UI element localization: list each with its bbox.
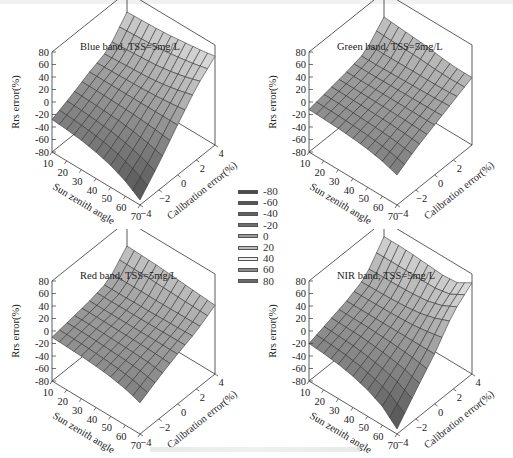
x-tick-label: 50	[101, 422, 112, 433]
x-tick-label: 60	[373, 431, 384, 442]
x-tick-label: 30	[72, 405, 83, 416]
y-tick-label: 4	[218, 148, 224, 159]
z-tick-label: 40	[296, 72, 307, 83]
legend-swatch	[238, 257, 258, 261]
z-tick-label: -60	[292, 134, 306, 145]
legend-swatch	[238, 223, 258, 227]
z-tick-label: 20	[296, 84, 307, 95]
x-tick-label: 10	[43, 387, 54, 398]
z-tick-label: -20	[35, 109, 49, 120]
chart-red-band: 806040200-20-40-60-80Rrs error(%)1020304…	[0, 229, 256, 458]
z-tick-label: -80	[35, 376, 49, 387]
z-tick-label: -80	[292, 376, 306, 387]
x-tick-label: 20	[314, 396, 325, 407]
z-axis-ticks: 806040200-20-40-60-80	[35, 276, 56, 387]
z-axis-label: Rrs error(%)	[267, 304, 279, 358]
legend-swatch	[238, 234, 258, 238]
z-tick-label: 0	[44, 97, 49, 108]
x-tick-label: 60	[373, 202, 384, 213]
x-tick-label: 10	[300, 387, 311, 398]
x-tick-label: 30	[329, 405, 340, 416]
y-tick-label: −4	[140, 208, 152, 219]
x-tick-label: 20	[57, 167, 68, 178]
y-tick-label: 0	[438, 407, 443, 418]
z-tick-label: -60	[292, 363, 306, 374]
z-tick-label: 0	[301, 326, 306, 337]
z-tick-label: -60	[35, 134, 49, 145]
y-tick-label: −2	[159, 193, 170, 204]
surface	[309, 237, 472, 429]
x-tick-label: 30	[72, 176, 83, 187]
x-tick-label: 10	[300, 158, 311, 169]
z-tick-label: 60	[39, 288, 50, 299]
legend-swatch	[238, 212, 258, 216]
x-tick-label: 40	[87, 185, 98, 196]
z-tick-label: 0	[301, 97, 306, 108]
z-tick-label: -40	[292, 122, 306, 133]
x-tick-label: 40	[344, 414, 355, 425]
z-tick-label: 80	[296, 47, 307, 58]
y-tick-label: 4	[218, 377, 224, 388]
z-tick-label: 60	[296, 59, 307, 70]
z-tick-label: 20	[39, 313, 50, 324]
y-tick-label: 4	[475, 377, 481, 388]
x-tick-label: 40	[344, 185, 355, 196]
z-tick-label: 0	[44, 326, 49, 337]
x-tick-label: 20	[57, 396, 68, 407]
z-tick-label: -80	[35, 147, 49, 158]
z-axis-ticks: 806040200-20-40-60-80	[292, 47, 313, 158]
legend-swatch	[238, 190, 258, 194]
z-tick-label: -60	[35, 363, 49, 374]
z-axis-label: Rrs error(%)	[10, 75, 22, 129]
y-tick-label: −4	[397, 208, 409, 219]
y-tick-label: 2	[457, 392, 462, 403]
legend-row: -40	[238, 208, 298, 219]
x-tick-label: 20	[314, 167, 325, 178]
y-tick-label: 0	[438, 178, 443, 189]
z-tick-label: 40	[296, 301, 307, 312]
z-tick-label: -20	[35, 338, 49, 349]
y-tick-label: −2	[159, 422, 170, 433]
z-tick-label: -20	[292, 338, 306, 349]
legend-row: 80	[238, 276, 298, 287]
z-tick-label: 80	[39, 47, 50, 58]
legend-swatch	[238, 279, 258, 283]
z-tick-label: 20	[39, 84, 50, 95]
y-tick-label: 2	[200, 392, 205, 403]
z-tick-label: 20	[296, 313, 307, 324]
y-tick-label: −2	[416, 422, 427, 433]
y-tick-label: 2	[457, 163, 462, 174]
x-tick-label: 60	[116, 202, 127, 213]
x-tick-label: 50	[358, 193, 369, 204]
z-axis-label: Rrs error(%)	[10, 304, 22, 358]
legend-swatch	[238, 201, 258, 205]
x-tick-label: 60	[116, 431, 127, 442]
y-tick-label: −2	[416, 193, 427, 204]
figure-caption-faint	[150, 447, 360, 452]
z-tick-label: -40	[35, 351, 49, 362]
y-tick-label: −4	[397, 437, 409, 448]
chart-title: Red band, TSS=5mg/L	[80, 270, 177, 281]
z-tick-label: -40	[35, 122, 49, 133]
z-tick-label: 40	[39, 301, 50, 312]
y-tick-label: 0	[181, 407, 186, 418]
chart-blue-band: 806040200-20-40-60-80Rrs error(%)1020304…	[0, 0, 256, 229]
x-tick-label: 50	[358, 422, 369, 433]
legend-swatch	[238, 268, 258, 272]
y-tick-label: 0	[181, 178, 186, 189]
chart-title: Green band, TSS=5mg/L	[337, 41, 443, 52]
colorbar-legend: -80 -60 -40 -20 0 20 40 60 80	[238, 186, 298, 287]
z-tick-label: -80	[292, 147, 306, 158]
z-tick-label: 40	[39, 72, 50, 83]
chart-title: NIR band, TSS=5mg/L	[337, 270, 435, 281]
z-axis-ticks: 806040200-20-40-60-80	[292, 276, 313, 387]
x-tick-label: 40	[87, 414, 98, 425]
x-tick-label: 50	[101, 193, 112, 204]
x-tick-label: 10	[43, 158, 54, 169]
legend-swatch	[238, 246, 258, 250]
z-axis-label: Rrs error(%)	[267, 75, 279, 129]
chart-title: Blue band, TSS=5mg/L	[80, 41, 180, 52]
z-tick-label: 80	[39, 276, 50, 287]
legend-row: 60	[238, 264, 298, 275]
x-tick-label: 30	[329, 176, 340, 187]
